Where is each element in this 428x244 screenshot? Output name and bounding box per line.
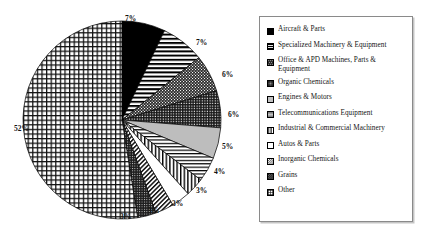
pie-chart-svg (0, 0, 256, 244)
legend-item[interactable]: Engines & Motors (267, 93, 408, 104)
legend-item-label: Office & APD Machines, Parts & Equipment (278, 56, 408, 73)
legend-item-label: Organic Chemicals (278, 78, 334, 87)
legend-swatch-vertical-lines-icon (267, 127, 274, 134)
pie-slice-percentage-label: 6% (222, 70, 233, 79)
legend-item-label: Inorganic Chemicals (278, 155, 339, 164)
legend-item-label: Industrial & Commercial Machinery (278, 124, 385, 133)
legend-swatch-white-empty-icon (267, 142, 274, 149)
pie-slice-percentage-label: 7% (196, 38, 207, 47)
pie-slice-percentage-label: 4% (214, 167, 225, 176)
legend-item[interactable]: Telecommunications Equipment (267, 109, 408, 120)
legend-swatch-light-gray-icon (267, 96, 274, 103)
legend-item[interactable]: Organic Chemicals (267, 78, 408, 89)
legend-item-label: Aircraft & Parts (278, 25, 325, 34)
pie-slice-percentage-label: 3% (148, 206, 159, 215)
legend-item[interactable]: Inorganic Chemicals (267, 155, 408, 166)
legend-item[interactable]: Autos & Parts (267, 140, 408, 151)
legend-item[interactable]: Industrial & Commercial Machinery (267, 124, 408, 135)
pie-slice-percentage-label: 6% (228, 110, 239, 119)
pie-slice (23, 21, 138, 219)
legend-item-label: Other (278, 186, 295, 195)
pie-slice-percentage-label: 3% (172, 199, 183, 208)
legend-item[interactable]: Specialized Machinery & Equipment (267, 41, 408, 52)
legend-swatch-horizontal-lines-icon (267, 43, 274, 50)
legend-swatch-solid-black-icon (267, 28, 274, 35)
legend-items-list: Aircraft & PartsSpecialized Machinery & … (267, 25, 408, 202)
pie-chart-figure: 7%7%6%6%5%4%3%3%3%3%52% Aircraft & Parts… (0, 0, 428, 244)
legend-item-label: Specialized Machinery & Equipment (278, 41, 386, 50)
pie-slice-percentage-label: 3% (196, 186, 207, 195)
legend-item-label: Telecommunications Equipment (278, 109, 373, 118)
legend-swatch-grid-icon (267, 189, 274, 196)
legend-item[interactable]: Office & APD Machines, Parts & Equipment (267, 56, 408, 73)
pie-slice-percentage-label: 3% (120, 212, 131, 221)
chart-legend: Aircraft & PartsSpecialized Machinery & … (259, 16, 413, 222)
legend-swatch-dark-dense-hatch-icon (267, 173, 274, 180)
legend-item[interactable]: Other (267, 186, 408, 197)
pie-chart-area: 7%7%6%6%5%4%3%3%3%3%52% (0, 0, 256, 244)
legend-swatch-diagonal-hatch-icon (267, 158, 274, 165)
legend-item-label: Autos & Parts (278, 140, 319, 149)
legend-item-label: Engines & Motors (278, 93, 332, 102)
legend-swatch-thin-horizontal-lines-icon (267, 111, 274, 118)
legend-swatch-dense-dark-dots-icon (267, 59, 274, 66)
pie-slice-percentage-label: 52% (14, 124, 29, 133)
legend-item-label: Grains (278, 171, 297, 180)
pie-slices (23, 21, 221, 219)
legend-item[interactable]: Grains (267, 171, 408, 182)
pie-slice-percentage-label: 7% (125, 14, 136, 23)
legend-swatch-dense-crosshatch-icon (267, 80, 274, 87)
pie-slice-percentage-label: 5% (222, 142, 233, 151)
legend-item[interactable]: Aircraft & Parts (267, 25, 408, 36)
